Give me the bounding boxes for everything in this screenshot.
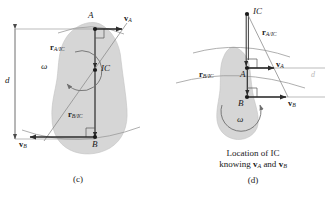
label-radius-ra-d: rA/IC <box>262 28 277 38</box>
label-point-ic-c: IC <box>101 64 110 73</box>
figure-root: A B IC d vA vB rA/IC rB/IC ω (c) IC A B … <box>0 0 325 200</box>
point-ic-dot-d <box>245 12 249 16</box>
label-vector-vb-d: vB <box>288 99 296 109</box>
panel-d-caption-line1: Location of IC <box>183 148 323 159</box>
ra-sub-c: A/IC <box>54 46 65 52</box>
label-radius-ra-c: rA/IC <box>50 43 65 53</box>
va-sub-d: A <box>280 63 284 69</box>
label-point-b-d: B <box>238 99 244 108</box>
label-dimension-d-d: d <box>311 71 315 79</box>
panel-d-caption-block: Location of IC knowing vA and vB (d) <box>183 148 323 187</box>
label-point-ic-d: IC <box>253 7 262 16</box>
panel-c-graphics <box>15 22 140 153</box>
panel-d-caption-line1-text: Location of IC <box>227 148 280 158</box>
panel-c-caption: (c) <box>58 174 98 185</box>
point-a-dot-c <box>93 27 97 31</box>
vb-sub-d: B <box>292 102 296 108</box>
label-omega-d: ω <box>237 115 243 124</box>
label-vector-vb-c: vB <box>19 140 27 150</box>
label-vector-va-d: vA <box>276 60 284 70</box>
panel-d-caption: (d) <box>183 175 323 186</box>
label-radius-rb-c: rB/IC <box>68 110 83 120</box>
point-ic-dot-c <box>93 68 97 72</box>
caption-and-text: and <box>261 159 279 169</box>
dimension-d-text-c: d <box>5 75 10 85</box>
rigid-body-shape-d <box>217 47 258 140</box>
label-radius-rb-d: rB/IC <box>199 70 214 80</box>
label-dimension-d-c: d <box>5 76 10 85</box>
caption-knowing-text: knowing <box>219 159 253 169</box>
panel-d-caption-line2: knowing vA and vB <box>183 159 323 171</box>
label-omega-c: ω <box>41 62 47 71</box>
rb-sub-c: B/IC <box>72 113 83 119</box>
vb-sub-c: B <box>23 143 27 149</box>
caption-vb-sub: B <box>283 164 287 170</box>
label-point-b-c: B <box>92 140 98 149</box>
rb-sub-d: B/IC <box>203 73 214 79</box>
label-point-a-d: A <box>240 70 246 79</box>
label-vector-va-c: vA <box>124 14 132 24</box>
label-point-a-c: A <box>88 11 94 20</box>
va-sub-c: A <box>128 17 132 23</box>
ra-sub-d: A/IC <box>266 31 277 37</box>
point-b-dot-d <box>245 95 249 99</box>
